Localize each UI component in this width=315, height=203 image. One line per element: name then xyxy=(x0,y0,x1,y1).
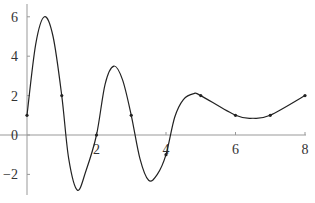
data-point xyxy=(60,94,63,97)
data-point xyxy=(269,114,272,117)
x-tick-label: 8 xyxy=(302,142,309,157)
data-point xyxy=(199,94,202,97)
y-tick-label: 2 xyxy=(11,89,18,104)
tick-labels: 24686420−2 xyxy=(3,10,308,183)
data-point xyxy=(25,114,28,117)
data-curve xyxy=(27,17,305,191)
y-tick-label: 0 xyxy=(11,128,18,143)
axes xyxy=(0,4,306,195)
data-point xyxy=(164,153,167,156)
data-point xyxy=(303,94,306,97)
data-point xyxy=(130,114,133,117)
x-tick-label: 6 xyxy=(232,142,239,157)
data-point xyxy=(95,133,98,136)
y-tick-label: −2 xyxy=(3,167,18,182)
y-tick-label: 6 xyxy=(11,10,18,25)
chart: 24686420−2 xyxy=(0,0,315,203)
data-point xyxy=(234,114,237,117)
y-tick-label: 4 xyxy=(11,49,18,64)
